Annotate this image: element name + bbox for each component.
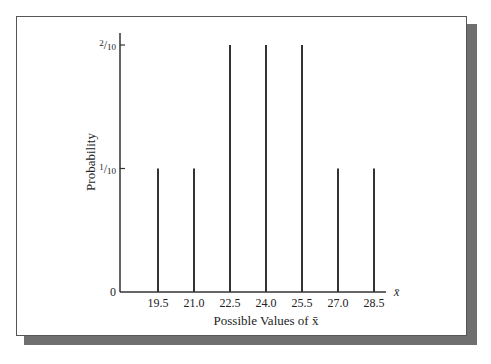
x-tick-label: 19.5 [148,296,169,310]
x-tick-label: 24.0 [256,296,277,310]
x-tick-label: 25.5 [292,296,313,310]
x-tick-label: 28.5 [364,296,385,310]
y-tick-label: 1/10 [99,162,116,176]
chart: x̄ 01/102/10 19.521.022.524.025.527.028.… [0,0,491,364]
y-tick-label: 2/10 [99,38,116,52]
bars [158,45,374,292]
y-tick-label: 0 [110,285,116,299]
x-tick-label: 27.0 [328,296,349,310]
y-axis-title: Probability [83,133,98,191]
x-axis-symbol: x̄ [393,285,400,299]
y-ticks: 01/102/10 [99,38,125,299]
x-tick-label: 21.0 [184,296,205,310]
x-axis-title: Possible Values of x̄ [214,313,319,328]
x-tick-labels: 19.521.022.524.025.527.028.5 [148,296,385,310]
x-tick-label: 22.5 [220,296,241,310]
